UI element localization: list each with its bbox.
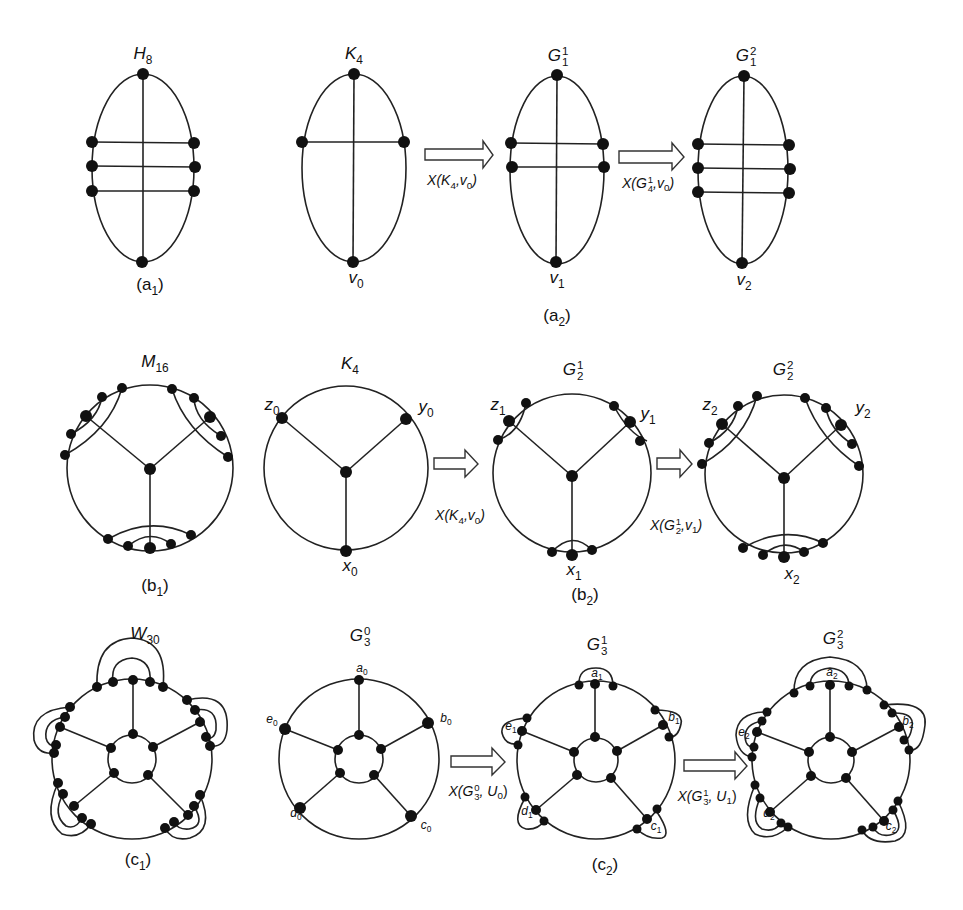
graph-g2-2 xyxy=(697,391,864,563)
vertex-label-v0: v0 xyxy=(348,269,363,290)
graph-h8 xyxy=(86,68,201,268)
graph-k4-a xyxy=(296,68,410,268)
vertex-label-z0: z0 xyxy=(264,396,279,417)
vertex-label-z1: z1 xyxy=(490,396,505,417)
operation-label-c-2: X(G13, U1) xyxy=(677,788,736,806)
vertex-label-b1: b1 xyxy=(668,711,679,726)
graph-title-m16: M16 xyxy=(141,353,168,374)
vertex-label-b0: b0 xyxy=(440,712,451,727)
caption-b2: (b2) xyxy=(571,586,598,607)
vertex-label-y0: y0 xyxy=(418,398,433,419)
vertex-label-v1: v1 xyxy=(549,269,564,290)
vertex-label-b2: b2 xyxy=(902,715,913,730)
caption-c2: (c2) xyxy=(592,856,618,877)
vertex-label-a2: a2 xyxy=(826,666,837,681)
operation-label-a-2: X(G14,v0) xyxy=(622,175,674,193)
arrow-a-1 xyxy=(425,141,493,168)
vertex-label-e0: e0 xyxy=(266,713,277,728)
operation-label-b-2: X(G12,v1) xyxy=(650,517,702,535)
vertex-label-y2: y2 xyxy=(855,399,870,420)
graph-title-g1-2: G21 xyxy=(736,46,757,68)
vertex-label-x1: x1 xyxy=(566,561,581,582)
operation-label-c-1: X(G03, U0) xyxy=(448,783,507,801)
graph-title-g2-2: G22 xyxy=(773,360,794,382)
graph-title-g3-2: G23 xyxy=(823,629,844,651)
vertex-label-c1: c1 xyxy=(651,820,662,835)
figure-canvas xyxy=(0,0,963,910)
arrow-c-2 xyxy=(684,752,747,779)
graph-title-g2-1: G12 xyxy=(563,360,584,382)
arrow-c-1 xyxy=(451,748,505,775)
graph-g3-0 xyxy=(279,675,439,839)
graph-title-k4-b: K4 xyxy=(341,355,359,376)
arrow-b-1 xyxy=(434,450,478,477)
vertex-label-c0: c0 xyxy=(421,819,432,834)
vertex-label-y1: y1 xyxy=(640,405,655,426)
vertex-label-z2: z2 xyxy=(702,396,717,417)
vertex-label-d1: d1 xyxy=(521,805,532,820)
graph-g2-1 xyxy=(493,394,651,561)
arrow-b-2 xyxy=(657,450,692,477)
vertex-label-e1: e1 xyxy=(505,720,516,735)
operation-label-a-1: X(K4,v0) xyxy=(427,173,477,191)
vertex-label-v2: v2 xyxy=(736,271,751,292)
graph-title-w30: W30 xyxy=(130,625,159,646)
graph-k4-b xyxy=(264,386,428,557)
graph-w30 xyxy=(34,638,228,839)
graph-g1-1 xyxy=(505,69,610,268)
caption-a1: (a1) xyxy=(136,276,163,297)
caption-b1: (b1) xyxy=(141,577,168,598)
arrow-a-2 xyxy=(619,143,684,170)
graph-title-h8: H8 xyxy=(134,45,153,66)
operation-label-b-1: X(K4,v0) xyxy=(435,508,485,526)
caption-c1: (c1) xyxy=(125,851,151,872)
vertex-label-x2: x2 xyxy=(784,565,799,586)
graph-title-g3-1: G13 xyxy=(587,635,608,657)
vertex-label-c2: c2 xyxy=(886,820,897,835)
graph-title-k4-a: K4 xyxy=(345,45,363,66)
vertex-label-d2: d2 xyxy=(763,807,774,822)
graph-m16 xyxy=(60,383,233,554)
graph-title-g3-0: G03 xyxy=(350,626,371,648)
graph-title-g1-1: G11 xyxy=(548,46,569,68)
graph-g1-2 xyxy=(692,70,796,269)
vertex-label-a1: a1 xyxy=(591,667,602,682)
vertex-label-d0: d0 xyxy=(290,807,301,822)
vertex-label-a0: a0 xyxy=(356,662,367,677)
vertex-label-x0: x0 xyxy=(342,557,357,578)
vertex-label-e2: e2 xyxy=(738,726,749,741)
caption-a2: (a2) xyxy=(543,307,570,328)
